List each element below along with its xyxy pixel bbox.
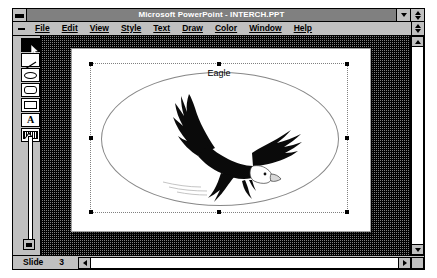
scroll-down-button[interactable] bbox=[411, 244, 424, 255]
vertical-scrollbar[interactable] bbox=[410, 36, 424, 255]
up-arrow-icon bbox=[415, 40, 421, 44]
scrollbar-corner bbox=[411, 257, 424, 269]
menu-item-edit[interactable]: Edit bbox=[56, 22, 84, 35]
menu-item-text[interactable]: Text bbox=[147, 22, 176, 35]
next-slide-button[interactable] bbox=[398, 257, 411, 269]
rectangle-icon bbox=[24, 101, 37, 109]
ellipse-tool[interactable] bbox=[21, 68, 40, 82]
minimize-button[interactable] bbox=[396, 9, 410, 21]
menu-item-draw[interactable]: Draw bbox=[176, 22, 209, 35]
resize-handle-top-center[interactable] bbox=[217, 62, 221, 66]
resize-handle-middle-left[interactable] bbox=[89, 136, 93, 140]
up-down-arrow-icon bbox=[415, 24, 421, 33]
title-bar: Microsoft PowerPoint - INTERCH.PPT bbox=[13, 9, 424, 22]
system-menu-icon[interactable] bbox=[13, 9, 27, 21]
menu-item-color[interactable]: Color bbox=[209, 22, 243, 35]
document-restore-button[interactable] bbox=[411, 22, 424, 35]
text-a-icon: A bbox=[27, 115, 34, 125]
slide-title-text[interactable]: Eagle bbox=[91, 68, 347, 79]
resize-handle-middle-right[interactable] bbox=[345, 136, 349, 140]
selection-tool[interactable] bbox=[21, 38, 40, 52]
system-menu-glyph bbox=[15, 14, 24, 16]
menu-item-style[interactable]: Style bbox=[115, 22, 147, 35]
menu-item-window[interactable]: Window bbox=[243, 22, 288, 35]
slide-canvas-area[interactable]: Eagle bbox=[41, 36, 410, 255]
status-bar: Slide 3 bbox=[13, 255, 424, 269]
rounded-rectangle-tool[interactable] bbox=[21, 83, 40, 97]
status-slide-label: Slide bbox=[13, 256, 43, 269]
restore-button[interactable] bbox=[410, 9, 424, 21]
resize-handle-top-right[interactable] bbox=[345, 62, 349, 66]
tool-palette: A bbox=[13, 36, 41, 255]
window-title: Microsoft PowerPoint - INTERCH.PPT bbox=[27, 9, 396, 21]
line-tool[interactable] bbox=[21, 53, 40, 67]
rounded-rect-icon bbox=[24, 86, 37, 94]
zoom-slider-thumb[interactable] bbox=[23, 239, 35, 250]
menu-bar: File Edit View Style Text Draw Color Win… bbox=[13, 22, 424, 36]
text-tool[interactable]: A bbox=[21, 113, 40, 127]
eagle-image[interactable] bbox=[141, 86, 311, 204]
vertical-scroll-track[interactable] bbox=[411, 47, 424, 244]
minimize-icon bbox=[401, 13, 407, 17]
scroll-up-button-top[interactable] bbox=[411, 36, 424, 47]
ellipse-icon bbox=[24, 72, 37, 79]
selected-object-frame[interactable]: Eagle bbox=[90, 63, 348, 213]
resize-handle-bottom-right[interactable] bbox=[345, 210, 349, 214]
resize-handle-top-left[interactable] bbox=[89, 62, 93, 66]
previous-slide-button[interactable] bbox=[78, 257, 91, 269]
menu-item-help[interactable]: Help bbox=[288, 22, 318, 35]
document-system-menu-icon[interactable] bbox=[13, 28, 29, 30]
line-icon bbox=[24, 56, 37, 65]
menu-item-file[interactable]: File bbox=[29, 22, 56, 35]
right-arrow-icon bbox=[403, 260, 407, 266]
zoom-slider[interactable] bbox=[28, 136, 33, 246]
work-area: A Eagle bbox=[13, 36, 424, 255]
restore-icon bbox=[415, 11, 421, 20]
powerpoint-window: Microsoft PowerPoint - INTERCH.PPT File … bbox=[12, 8, 425, 270]
slide-page[interactable]: Eagle bbox=[71, 48, 371, 232]
window-controls bbox=[396, 9, 424, 21]
down-arrow-icon bbox=[415, 248, 421, 252]
left-arrow-icon bbox=[83, 260, 87, 266]
resize-handle-bottom-left[interactable] bbox=[89, 210, 93, 214]
status-slide-number: 3 bbox=[43, 256, 64, 269]
horizontal-scroll-track[interactable] bbox=[91, 257, 398, 269]
menu-item-view[interactable]: View bbox=[84, 22, 115, 35]
rectangle-tool[interactable] bbox=[21, 98, 40, 112]
resize-handle-bottom-center[interactable] bbox=[217, 210, 221, 214]
